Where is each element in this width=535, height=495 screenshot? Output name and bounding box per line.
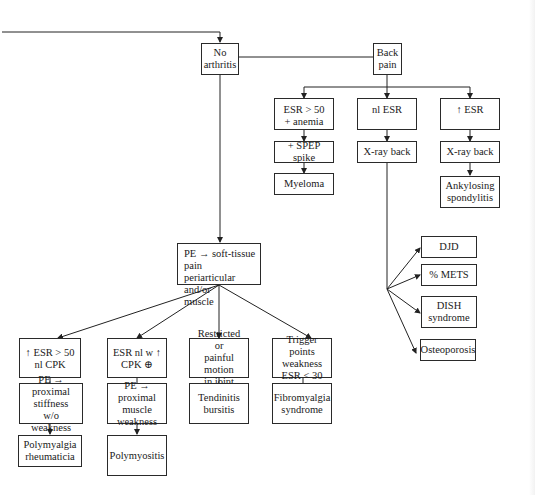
node-label: ESR nl w ↑ CPK ⊕ [113, 347, 161, 371]
node-label: Trigger points weakness ESR < 30 [276, 334, 328, 382]
node-trigger-points: Trigger points weakness ESR < 30 [272, 338, 332, 378]
node-pe-proximal-stiffness: PE → proximal stiffness w/o weakness [19, 383, 83, 424]
node-nl-esr: nl ESR [357, 98, 417, 130]
node-spep-spike: + SPEP spike [274, 141, 334, 163]
node-label: Fibromyalgia syndrome [274, 392, 331, 416]
node-no-arthritis: No arthritis [201, 43, 239, 75]
node-label: + SPEP spike [278, 140, 330, 164]
node-label: Polymyositis [110, 450, 165, 462]
node-tendinitis-bursitis: Tendinitis bursitis [189, 383, 249, 424]
node-label: Osteoporosis [421, 344, 476, 356]
node-restricted-motion: Restricted or painful motion in joint [189, 338, 249, 378]
node-polymyalgia-rheumaticia: Polymyalgia rheumaticia [18, 435, 82, 467]
node-esr-gt50-nl-cpk: ↑ ESR > 50 nl CPK [19, 338, 81, 378]
node-esr-anemia: ESR > 50 + anemia [274, 98, 334, 130]
node-label: nl ESR [372, 104, 402, 116]
node-label: ↑ ESR [456, 104, 483, 116]
node-osteoporosis: Osteoporosis [420, 339, 476, 361]
node-dish-syndrome: DISH syndrome [421, 296, 477, 328]
node-label: Back pain [377, 47, 399, 71]
node-up-esr: ↑ ESR [440, 98, 500, 130]
node-xray-back-1: X-ray back [357, 141, 417, 163]
node-label: Tendinitis bursitis [198, 392, 240, 416]
node-xray-back-2: X-ray back [440, 141, 500, 163]
page-edge-shadow [529, 0, 535, 495]
node-label: X-ray back [447, 146, 494, 158]
node-label: % METS [429, 269, 468, 281]
node-pe-proximal-weakness: PE → proximal muscle weakness [107, 383, 167, 424]
node-label: ESR > 50 + anemia [284, 104, 325, 128]
node-fibromyalgia-syndrome: Fibromyalgia syndrome [272, 383, 332, 424]
node-label: Restricted or painful motion in joint [193, 328, 245, 388]
node-label: X-ray back [364, 146, 411, 158]
node-label: PE → proximal muscle weakness [111, 380, 163, 428]
node-mets: % METS [421, 264, 477, 286]
node-label: PE → soft-tissue pain periarticular and/… [184, 248, 257, 308]
node-myeloma: Myeloma [274, 173, 334, 195]
node-esr-nl-cpk-pos: ESR nl w ↑ CPK ⊕ [107, 338, 167, 378]
node-label: Polymyalgia rheumaticia [23, 439, 76, 463]
node-pe-soft-tissue: PE → soft-tissue pain periarticular and/… [177, 243, 261, 285]
node-label: DJD [439, 241, 458, 253]
node-label: Myeloma [284, 178, 324, 190]
node-back-pain: Back pain [373, 43, 402, 75]
node-ankylosing-spondylitis: Ankylosing spondylitis [440, 176, 500, 208]
node-label: DISH syndrome [428, 300, 469, 324]
node-label: Ankylosing spondylitis [445, 180, 494, 204]
node-label: No arthritis [204, 47, 237, 71]
node-label: ↑ ESR > 50 nl CPK [26, 347, 75, 371]
node-polymyositis: Polymyositis [107, 435, 167, 476]
node-djd: DJD [421, 236, 477, 258]
node-label: PE → proximal stiffness w/o weakness [23, 374, 79, 434]
